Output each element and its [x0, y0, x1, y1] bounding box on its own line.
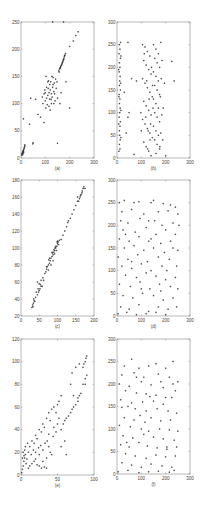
data-point	[136, 376, 138, 378]
data-point	[169, 471, 171, 473]
data-point	[176, 446, 178, 448]
data-point	[121, 462, 123, 464]
data-point	[117, 471, 119, 473]
data-point	[177, 430, 179, 432]
y-tick-label: 250	[108, 359, 116, 364]
data-point	[158, 471, 160, 473]
data-point	[169, 429, 171, 431]
data-point	[141, 381, 143, 383]
data-point	[148, 471, 150, 473]
data-point	[155, 454, 157, 456]
data-point	[171, 466, 173, 468]
data-point	[148, 365, 150, 367]
data-point	[165, 456, 167, 458]
data-point	[141, 428, 143, 430]
y-tick-label: 50	[110, 449, 116, 454]
data-point	[162, 387, 164, 389]
data-point	[138, 367, 140, 369]
data-point	[127, 470, 129, 472]
x-tick-label: 300	[186, 476, 194, 481]
data-point	[128, 446, 130, 448]
x-tick-label: 200	[162, 476, 170, 481]
data-point	[124, 365, 126, 367]
data-point	[132, 437, 134, 439]
data-point	[161, 465, 163, 467]
data-point	[159, 428, 161, 430]
data-point	[134, 408, 136, 410]
data-point	[125, 390, 127, 392]
x-tick-label: 100	[138, 476, 146, 481]
data-point	[119, 383, 121, 385]
data-point	[124, 417, 126, 419]
data-point	[127, 406, 129, 408]
x-tick-label: 0	[116, 476, 119, 481]
data-point	[169, 376, 171, 378]
data-point	[131, 358, 133, 360]
panel-caption: (f)	[151, 482, 156, 487]
data-point	[120, 399, 122, 401]
data-point	[143, 434, 145, 436]
data-point	[149, 396, 151, 398]
data-point	[167, 410, 169, 412]
data-point	[158, 373, 160, 375]
data-point	[130, 426, 132, 428]
y-tick-label: 150	[108, 404, 116, 409]
data-point	[172, 361, 174, 363]
data-point	[145, 457, 147, 459]
data-point	[150, 384, 152, 386]
data-point	[156, 408, 158, 410]
data-point	[138, 442, 140, 444]
data-point	[141, 466, 143, 468]
y-tick-label: 100	[108, 427, 116, 432]
data-point	[147, 445, 149, 447]
data-point	[162, 438, 164, 440]
data-point	[165, 397, 167, 399]
data-point	[155, 394, 157, 396]
data-point	[153, 400, 155, 402]
data-point	[171, 397, 173, 399]
data-point	[139, 415, 141, 417]
data-point	[125, 453, 127, 455]
data-point	[170, 419, 172, 421]
data-point	[136, 392, 138, 394]
data-point	[153, 436, 155, 438]
data-point	[143, 376, 145, 378]
data-point	[166, 448, 168, 450]
scatter-plot-f: 0100200300050100150200250300(f)	[0, 0, 205, 507]
data-point	[173, 470, 175, 472]
data-point	[121, 374, 123, 376]
data-point	[156, 447, 158, 449]
data-point	[172, 383, 174, 385]
data-point	[145, 393, 147, 395]
data-point	[175, 455, 177, 457]
data-point	[162, 403, 164, 405]
data-point	[131, 402, 133, 404]
data-point	[150, 463, 152, 465]
data-point	[177, 381, 179, 383]
data-point	[126, 442, 128, 444]
data-point	[148, 430, 150, 432]
data-point	[133, 419, 135, 421]
data-point	[134, 455, 136, 457]
data-point	[133, 372, 135, 374]
data-point	[120, 444, 122, 446]
data-point	[176, 412, 178, 414]
data-point	[166, 446, 168, 448]
data-point	[145, 410, 147, 412]
data-point	[155, 363, 157, 365]
y-tick-label: 200	[108, 382, 116, 387]
data-point	[144, 421, 146, 423]
data-point	[122, 435, 124, 437]
data-point	[165, 367, 167, 369]
data-point	[138, 472, 140, 474]
y-tick-label: 300	[108, 337, 116, 342]
data-point	[142, 401, 144, 403]
data-point	[175, 390, 177, 392]
data-point	[119, 425, 121, 427]
data-point	[160, 381, 162, 383]
data-point	[131, 464, 133, 466]
data-point	[128, 385, 130, 387]
data-point	[121, 407, 123, 409]
data-point	[173, 439, 175, 441]
data-point	[160, 420, 162, 422]
